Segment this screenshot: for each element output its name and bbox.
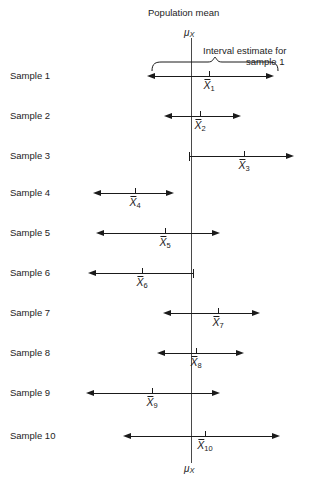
sample-mean-label-7: X7: [212, 317, 223, 329]
sample-label-4: Sample 4: [10, 188, 50, 198]
left-arrow-icon-sample-2: [164, 113, 172, 119]
sample-mean-tick-7: [218, 308, 219, 313]
sample-label-10: Sample 10: [10, 431, 55, 441]
xbar-subscript-5: 5: [166, 241, 170, 250]
interval-estimate-sample-8: [165, 353, 236, 354]
sample-label-5: Sample 5: [10, 228, 50, 238]
sample-label-9: Sample 9: [10, 388, 50, 398]
xbar-subscript-9: 9: [153, 401, 157, 410]
left-arrow-icon-sample-7: [163, 310, 171, 316]
xbar-subscript-8: 8: [197, 361, 201, 370]
interval-annotation-line-1: Interval estimate for: [203, 46, 286, 56]
xbar-subscript-10: 10: [204, 444, 212, 453]
right-arrow-icon-sample-5: [212, 230, 220, 236]
xbar-glyph-4: X: [129, 197, 136, 208]
xbar-subscript-2: 2: [201, 124, 205, 133]
sample-mean-tick-4: [135, 188, 136, 193]
right-arrow-icon-sample-7: [252, 310, 260, 316]
mu-subscript-bottom: X: [189, 466, 194, 475]
left-arrow-icon-sample-10: [123, 433, 131, 439]
sample-mean-label-1: X1: [203, 80, 214, 92]
left-cap-icon-sample-3: [189, 152, 190, 161]
sample-mean-tick-1: [209, 71, 210, 76]
sample-mean-tick-3: [244, 151, 245, 156]
xbar-subscript-7: 7: [219, 321, 223, 330]
xbar-subscript-3: 3: [245, 164, 249, 173]
right-arrow-icon-sample-8: [236, 350, 244, 356]
interval-estimate-sample-5: [104, 233, 212, 234]
xbar-subscript-4: 4: [136, 201, 140, 210]
xbar-glyph-2: X: [194, 120, 201, 131]
right-arrow-icon-sample-3: [286, 153, 294, 159]
sample-mean-label-2: X2: [194, 120, 205, 132]
sample-mean-label-3: X3: [238, 160, 249, 172]
left-arrow-icon-sample-8: [157, 350, 165, 356]
xbar-glyph-1: X: [203, 80, 210, 91]
xbar-glyph-9: X: [146, 397, 153, 408]
sample-label-1: Sample 1: [10, 71, 50, 81]
interval-estimate-sample-4: [101, 193, 166, 194]
xbar-glyph-7: X: [212, 317, 219, 328]
left-arrow-icon-sample-6: [88, 270, 96, 276]
xbar-subscript-6: 6: [143, 281, 147, 290]
right-cap-icon-sample-6: [193, 269, 194, 278]
sample-label-3: Sample 3: [10, 151, 50, 161]
sample-label-2: Sample 2: [10, 111, 50, 121]
right-arrow-icon-sample-2: [233, 113, 241, 119]
left-arrow-icon-sample-9: [86, 390, 94, 396]
left-arrow-icon-sample-4: [93, 190, 101, 196]
left-arrow-icon-sample-5: [96, 230, 104, 236]
interval-estimate-sample-2: [172, 116, 233, 117]
xbar-subscript-1: 1: [210, 84, 214, 93]
sample-mean-label-9: X9: [146, 397, 157, 409]
interval-estimate-sample-10: [131, 436, 272, 437]
interval-estimate-sample-6: [96, 273, 194, 274]
xbar-glyph-6: X: [136, 277, 143, 288]
xbar-glyph-3: X: [238, 160, 245, 171]
interval-estimate-sample-9: [94, 393, 212, 394]
sample-mean-tick-2: [200, 111, 201, 116]
right-arrow-icon-sample-10: [272, 433, 280, 439]
figure-title: Population mean: [148, 8, 219, 18]
interval-estimate-sample-7: [171, 313, 252, 314]
population-mean-symbol-bottom: μX: [184, 464, 195, 475]
right-arrow-icon-sample-4: [166, 190, 174, 196]
sample-mean-label-6: X6: [136, 277, 147, 289]
sample-label-7: Sample 7: [10, 308, 50, 318]
confidence-interval-figure: Population mean μX μX Interval estimate …: [0, 0, 326, 481]
xbar-glyph-10: X: [197, 440, 204, 451]
left-arrow-icon-sample-1: [147, 73, 155, 79]
xbar-glyph-8: X: [190, 357, 197, 368]
interval-estimate-sample-3: [189, 156, 286, 157]
sample-mean-tick-9: [152, 388, 153, 393]
sample-mean-label-4: X4: [129, 197, 140, 209]
sample-mean-tick-10: [205, 431, 206, 436]
sample-mean-label-8: X8: [190, 357, 201, 369]
sample-label-8: Sample 8: [10, 348, 50, 358]
right-arrow-icon-sample-1: [266, 73, 274, 79]
population-mean-symbol-top: μX: [184, 28, 195, 39]
sample1-brace-icon: [150, 56, 280, 72]
sample-mean-tick-6: [142, 268, 143, 273]
sample-mean-tick-5: [165, 228, 166, 233]
sample-mean-tick-8: [196, 348, 197, 353]
right-arrow-icon-sample-9: [212, 390, 220, 396]
population-mean-axis-line: [191, 38, 192, 463]
sample-label-6: Sample 6: [10, 268, 50, 278]
interval-estimate-sample-1: [155, 76, 266, 77]
sample-mean-label-5: X5: [159, 237, 170, 249]
xbar-glyph-5: X: [159, 237, 166, 248]
sample-mean-label-10: X10: [197, 440, 212, 452]
